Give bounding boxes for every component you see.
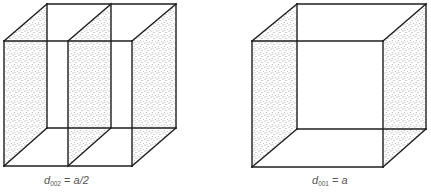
shaded-plane-middle [68,4,111,166]
cube-d002 [4,4,176,166]
label-value: a [342,174,348,186]
label-value: a/2 [74,174,89,186]
label-equals: = [332,174,338,186]
shaded-plane-left-face [252,4,297,167]
label-equals: = [64,174,70,186]
cube-d001 [252,4,426,167]
label-d002: d002 = a/2 [44,174,89,187]
shaded-plane-right-face [132,4,176,166]
label-d001: d001 = a [312,174,348,187]
shaded-plane-right-face [383,4,426,167]
label-subscript: 001 [318,180,329,187]
crystal-plane-figure [0,0,431,196]
label-subscript: 002 [50,180,61,187]
shaded-plane-left-face [4,4,47,166]
